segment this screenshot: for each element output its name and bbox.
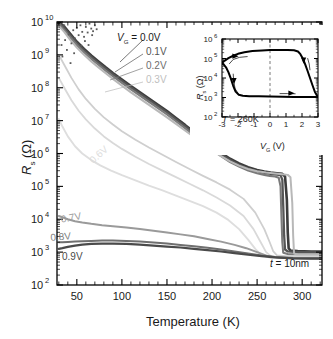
y-tick-exponent-3: 3 xyxy=(45,243,49,252)
inset-x-tick-1: 1 xyxy=(284,120,289,129)
legend-title-value: = 0.0V xyxy=(129,32,161,43)
y-tick-label-3: 10 xyxy=(31,246,43,258)
y-tick-label-9: 10 xyxy=(31,49,43,61)
y-tick-label-5: 10 xyxy=(31,180,43,192)
curve-label-0.8V: 0.8V xyxy=(50,231,71,243)
y-axis-title-subscript: s xyxy=(28,162,37,166)
curve-label-0.9V: 0.9V xyxy=(62,252,83,262)
x-tick-label-50: 50 xyxy=(71,290,83,302)
y-tick-exponent-2: 2 xyxy=(45,276,49,285)
y-tick-label-7: 10 xyxy=(31,115,43,127)
y-tick-label-2: 10 xyxy=(31,279,43,291)
legend-item-0.2V: 0.2V xyxy=(146,61,167,71)
x-tick-label-250: 250 xyxy=(248,290,266,302)
x-axis-tick-labels: 50100150200250300 xyxy=(71,290,312,302)
inset-x-tick-3: 3 xyxy=(316,120,321,129)
thickness-annotation: t = 10nm xyxy=(270,259,309,269)
y-tick-label-4: 10 xyxy=(31,213,43,225)
inset-x-axis-title: VG (V) xyxy=(260,142,285,153)
legend-item-0.1V: 0.1V xyxy=(146,47,167,57)
y-axis-title-symbol: R xyxy=(19,166,34,175)
inset-y-tick-2: 10 xyxy=(204,113,213,122)
x-tick-label-150: 150 xyxy=(158,290,176,302)
y-tick-exponent-5: 5 xyxy=(45,177,49,186)
inset-condition-label: T = 260K xyxy=(222,115,259,124)
y-tick-exponent-8: 8 xyxy=(45,79,49,88)
x-axis-title: Temperature (K) xyxy=(146,315,240,328)
y-tick-exponent-10: 10 xyxy=(45,13,53,22)
inset-y-axis-title: Rs (Ω) xyxy=(196,75,207,100)
y-tick-label-10: 10 xyxy=(31,16,43,28)
inset-background xyxy=(190,25,330,155)
y-axis-title: Rs (Ω) xyxy=(20,140,37,175)
inset-y-tick-5: 10 xyxy=(204,55,213,64)
thickness-value: = 10nm xyxy=(273,258,309,269)
y-tick-exponent-4: 4 xyxy=(45,210,49,219)
inset-y-title-unit: (Ω) xyxy=(195,75,205,90)
y-tick-label-8: 10 xyxy=(31,82,43,94)
y-axis-title-unit: (Ω) xyxy=(19,140,34,162)
legend-title: VG = 0.0V xyxy=(117,33,160,45)
inset-chart-svg: -3-2-10123102103104105106 xyxy=(190,25,330,155)
figure-panel: 5010015020025030010210310410510610710810… xyxy=(0,0,333,339)
inset-x-tick-2: 2 xyxy=(300,120,305,129)
inset-y-title-symbol: R xyxy=(195,94,205,101)
y-tick-exponent-9: 9 xyxy=(45,46,49,55)
y-tick-exponent-7: 7 xyxy=(45,112,49,121)
y-tick-exponent-6: 6 xyxy=(45,145,49,154)
inset-x-tick-0: 0 xyxy=(268,120,273,129)
inset-y-title-subscript: s xyxy=(201,91,207,94)
x-tick-label-200: 200 xyxy=(203,290,221,302)
x-tick-label-300: 300 xyxy=(293,290,311,302)
inset-condition-value: = 260K xyxy=(228,114,259,124)
inset-y-tick-6: 10 xyxy=(204,35,213,44)
legend-title-symbol: V xyxy=(117,32,124,43)
legend-item-0.3V: 0.3V xyxy=(146,75,167,85)
inset-x-title-unit: (V) xyxy=(270,141,285,151)
x-tick-label-100: 100 xyxy=(113,290,131,302)
